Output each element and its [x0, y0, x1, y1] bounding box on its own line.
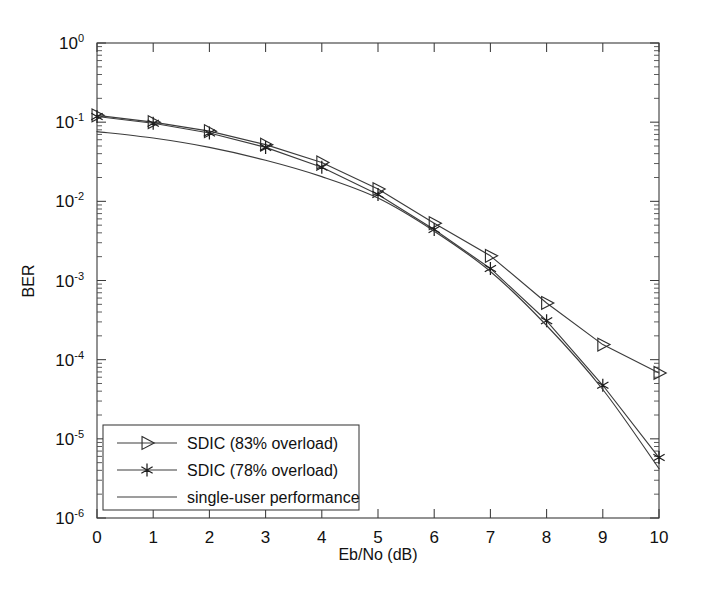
y-tick-exponent: -4 [74, 349, 84, 361]
x-tick-label: 0 [92, 528, 101, 547]
y-tick-exponent: 0 [78, 32, 84, 44]
x-tick-label: 2 [205, 528, 214, 547]
chart-legend: SDIC (83% overload)SDIC (78% overload)si… [103, 425, 360, 510]
x-axis-label: Eb/No (dB) [338, 546, 417, 563]
y-tick-exponent: -1 [74, 111, 84, 123]
x-tick-label: 6 [429, 528, 438, 547]
y-tick-exponent: -3 [74, 270, 84, 282]
y-tick-exponent: -6 [74, 507, 84, 519]
x-tick-label: 4 [317, 528, 326, 547]
chart-figure: 10010-110-210-310-410-510-6 012345678910… [0, 0, 702, 595]
y-tick-exponent: -2 [74, 190, 84, 202]
legend-label: SDIC (83% overload) [187, 435, 338, 452]
y-axis-label: BER [20, 265, 37, 298]
chart-svg: 10010-110-210-310-410-510-6 012345678910… [0, 0, 702, 595]
x-tick-label: 3 [261, 528, 270, 547]
x-tick-label: 5 [373, 528, 382, 547]
x-tick-label: 9 [598, 528, 607, 547]
x-tick-label: 1 [148, 528, 157, 547]
y-tick-exponent: -5 [74, 428, 84, 440]
x-tick-label: 8 [542, 528, 551, 547]
legend-label: single-user performance [187, 489, 360, 506]
x-tick-label: 10 [650, 528, 669, 547]
legend-label: SDIC (78% overload) [187, 462, 338, 479]
x-tick-label: 7 [486, 528, 495, 547]
